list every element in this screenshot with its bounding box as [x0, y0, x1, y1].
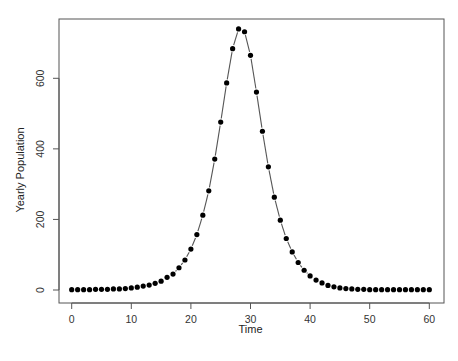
series-segment [175, 270, 176, 271]
series-segment [234, 32, 238, 45]
data-point [319, 280, 324, 285]
data-point [403, 287, 408, 292]
data-point [176, 265, 181, 270]
data-point [236, 26, 241, 31]
x-tick-label: 50 [364, 313, 376, 325]
series-segment [227, 52, 232, 79]
series-segment [257, 96, 262, 128]
data-point [343, 286, 348, 291]
data-point [87, 287, 92, 292]
data-point [296, 260, 301, 265]
data-point [331, 284, 336, 289]
data-point [153, 281, 158, 286]
series-segment [204, 194, 208, 211]
data-point [302, 268, 307, 273]
series-segment [269, 170, 274, 193]
x-tick-label: 40 [304, 313, 316, 325]
data-point [170, 272, 175, 277]
data-point [272, 195, 277, 200]
data-point [135, 285, 140, 290]
figure-caption-cropped [14, 356, 224, 361]
data-point [75, 287, 80, 292]
x-tick-label: 60 [423, 313, 435, 325]
series-segment [209, 163, 214, 188]
data-point [188, 246, 193, 251]
series-points [69, 26, 432, 292]
data-point [373, 287, 378, 292]
series-segment [263, 135, 268, 164]
data-point [230, 46, 235, 51]
series-segment [192, 238, 195, 246]
data-point [200, 213, 205, 218]
data-point [427, 287, 432, 292]
series-segment [198, 219, 202, 232]
x-tick-label: 20 [185, 313, 197, 325]
data-point [111, 286, 116, 291]
data-point [313, 278, 318, 283]
data-point [266, 164, 271, 169]
data-point [81, 287, 86, 292]
data-point [260, 129, 265, 134]
series-segment [275, 201, 279, 217]
x-tick-label: 10 [125, 313, 137, 325]
series-segment [181, 263, 183, 265]
series-segment [281, 224, 285, 235]
data-point [242, 29, 247, 34]
y-tick-label: 200 [34, 211, 46, 229]
series-segment [307, 273, 308, 274]
data-point [254, 89, 259, 94]
x-ticks: 0102030405060 [69, 303, 436, 325]
data-point [325, 283, 330, 288]
data-point [69, 287, 74, 292]
data-point [93, 287, 98, 292]
data-point [105, 287, 110, 292]
data-point [99, 287, 104, 292]
data-point [415, 287, 420, 292]
y-tick-label: 400 [34, 140, 46, 158]
data-point [421, 287, 426, 292]
data-point [391, 287, 396, 292]
y-axis-title: Yearly Population [14, 127, 26, 212]
data-point [290, 249, 295, 254]
data-point [164, 275, 169, 280]
y-tick-label: 0 [34, 287, 46, 293]
data-point [212, 156, 217, 161]
data-point [367, 287, 372, 292]
x-tick-label: 0 [69, 313, 75, 325]
data-point [308, 273, 313, 278]
x-axis-title: Time [238, 323, 262, 335]
series-segment [245, 35, 249, 52]
data-point [409, 287, 414, 292]
y-tick-label: 600 [34, 69, 46, 87]
data-point [379, 287, 384, 292]
series-segment [221, 86, 226, 118]
data-point [349, 286, 354, 291]
series-segment [187, 252, 190, 257]
data-point [218, 119, 223, 124]
data-point [278, 218, 283, 223]
data-point [385, 287, 390, 292]
data-point [117, 286, 122, 291]
data-point [147, 282, 152, 287]
data-point [123, 286, 128, 291]
series-segment [251, 59, 256, 89]
population-chart: 0200400600 0102030405060 Time Yearly Pop… [0, 0, 458, 361]
y-ticks: 0200400600 [34, 69, 59, 293]
series-segment [288, 242, 291, 249]
data-point [224, 80, 229, 85]
data-point [355, 287, 360, 292]
data-point [129, 285, 134, 290]
data-point [248, 53, 253, 58]
data-point [397, 287, 402, 292]
data-point [141, 284, 146, 289]
data-point [206, 188, 211, 193]
series-segment [294, 255, 296, 259]
data-point [284, 236, 289, 241]
series-segment [300, 265, 302, 267]
data-point [182, 257, 187, 262]
data-point [361, 287, 366, 292]
data-point [159, 279, 164, 284]
data-point [337, 285, 342, 290]
data-point [194, 232, 199, 237]
series-segment [215, 126, 220, 156]
